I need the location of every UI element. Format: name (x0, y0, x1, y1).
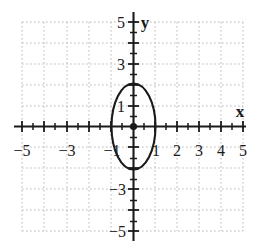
origin-point-marker (130, 123, 137, 130)
x-tick-label-pos2: 2 (173, 142, 181, 159)
x-tick-label-pos3: 3 (195, 142, 203, 159)
y-tick-label-neg5: −5 (109, 223, 126, 240)
x-tick-label-pos4: 4 (217, 142, 225, 159)
x-tick-label-pos1: 1 (152, 142, 160, 159)
y-tick-label-pos5: 5 (117, 14, 125, 31)
y-tick-label-pos3: 3 (117, 56, 125, 73)
y-tick-label-neg3: −3 (109, 181, 126, 198)
x-axis-label: x (236, 102, 245, 121)
y-axis-label: y (141, 13, 150, 32)
x-tick-label-neg3: −3 (58, 142, 75, 159)
x-tick-label-pos5: 5 (239, 142, 247, 159)
x-tick-label-neg1: −1 (103, 142, 120, 159)
y-tick-label-pos1: 1 (117, 98, 125, 115)
graph-figure: −5 −3 −1 1 2 3 4 5 5 3 1 −3 −5 x y (0, 0, 253, 251)
coordinate-plane-svg: −5 −3 −1 1 2 3 4 5 5 3 1 −3 −5 x y (0, 0, 253, 251)
x-tick-label-neg5: −5 (13, 142, 30, 159)
